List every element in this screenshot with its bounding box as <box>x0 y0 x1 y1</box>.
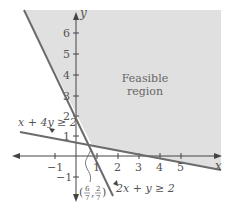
x-tick-label: 2 <box>114 161 121 174</box>
svg-text:(: ( <box>79 186 83 199</box>
region-label-line2: region <box>127 85 163 98</box>
y-tick-label: 5 <box>63 48 70 61</box>
x-tick-label: 4 <box>156 161 163 174</box>
svg-text:7: 7 <box>85 194 89 202</box>
y-tick-label: 4 <box>63 69 70 82</box>
inequality-label-2x-plus-y: 2x + y ≥ 2 <box>115 182 175 195</box>
x-tick-label: 1 <box>93 161 100 174</box>
y-tick-label: 1 <box>63 130 70 143</box>
y-tick-label: 3 <box>63 90 70 103</box>
x-axis-label: x <box>215 159 222 173</box>
x-tick-label: 5 <box>177 161 184 174</box>
svg-text:6: 6 <box>85 185 90 193</box>
svg-text:2: 2 <box>96 185 100 193</box>
svg-text:): ) <box>102 186 106 199</box>
svg-text:7: 7 <box>96 194 100 202</box>
y-tick-label: 6 <box>63 27 70 40</box>
y-axis-label: y <box>79 6 87 20</box>
x-axis-left-arrow-icon <box>12 153 20 159</box>
y-tick-label: −1 <box>56 171 72 184</box>
vertex-label: ( 6 7 , 2 7 ) <box>79 185 106 202</box>
x-tick-label: 3 <box>135 161 142 174</box>
feasible-region-graph: x y −1 1 2 3 4 5 6 5 4 3 2 1 −1 Feasible… <box>0 0 234 215</box>
inequality-label-x-plus-4y: x + 4y ≥ 2 <box>18 116 77 129</box>
region-label-line1: Feasible <box>122 72 168 85</box>
svg-text:,: , <box>91 186 95 199</box>
feasible-region <box>24 10 221 170</box>
vertex-callout-pointer <box>85 149 91 182</box>
